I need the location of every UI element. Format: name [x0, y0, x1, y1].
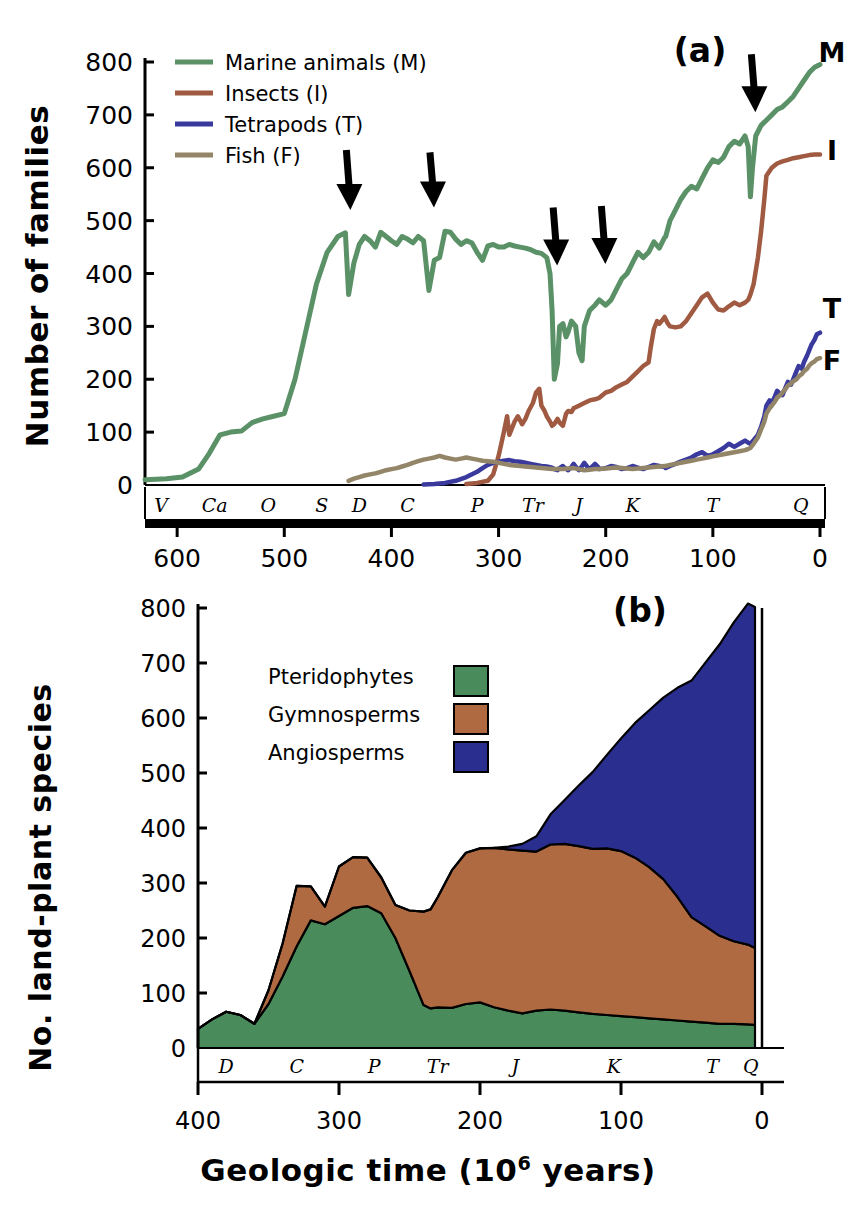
svg-text:800: 800: [85, 48, 133, 77]
figure-xaxis-title: Geologic time (106 years): [0, 1152, 856, 1188]
panel-b-chart: 0100200300400500600700800DCPTrJKTQ400300…: [0, 570, 856, 1150]
panel-b-ytick-100: 100: [140, 980, 186, 1008]
panel-b-period-P: P: [367, 1055, 382, 1077]
extinction-arrow-0: [336, 150, 362, 210]
panel-b-ytick-700: 700: [140, 650, 186, 678]
panel-b-legend-label-0: Pteridophytes: [268, 665, 414, 689]
panel-b-ytick-400: 400: [140, 815, 186, 843]
series-line-1: [466, 155, 820, 484]
panel-b-ytick-0: 0: [171, 1035, 186, 1063]
panel-a-end-label-T: T: [823, 293, 842, 324]
panel-b-legend-swatch-1: [454, 704, 488, 734]
panel-a-xtick-100: 100: [689, 544, 737, 570]
svg-text:100: 100: [85, 418, 133, 447]
svg-text:200: 200: [85, 365, 133, 394]
panel-b-ytick-200: 200: [140, 925, 186, 953]
xaxis-title-tail: years): [531, 1152, 655, 1188]
panel-a-period-S: S: [315, 494, 328, 516]
panel-b-legend-swatch-2: [454, 742, 488, 772]
panel-a-xtick-0: 0: [812, 544, 828, 570]
panel-b-xtick-100: 100: [598, 1107, 644, 1135]
panel-a-period-P: P: [470, 494, 485, 516]
panel-a-chart: 0100200300400500600700800VCaOSDCPTrJKTQ6…: [0, 0, 856, 570]
panel-a: Number of families 010020030040050060070…: [0, 0, 856, 570]
extinction-arrow-1: [420, 152, 446, 207]
panel-a-tag: (a): [674, 31, 726, 70]
panel-b-ylabel: No. land-plant species: [23, 648, 58, 1108]
panel-b-legend-label-1: Gymnosperms: [268, 703, 420, 727]
figure-root: Number of families 010020030040050060070…: [0, 0, 856, 1229]
panel-b-xtick-300: 300: [316, 1107, 362, 1135]
panel-b-period-D: D: [218, 1055, 234, 1077]
panel-a-xtick-500: 500: [260, 544, 308, 570]
panel-a-xtick-600: 600: [153, 544, 201, 570]
panel-a-xtick-200: 200: [582, 544, 630, 570]
panel-a-ylabel: Number of families: [19, 61, 55, 491]
panel-b-xtick-200: 200: [457, 1107, 503, 1135]
legend-label-1: Insects (I): [225, 82, 328, 106]
panel-a-xtick-400: 400: [368, 544, 416, 570]
panel-b-legend-swatch-0: [454, 666, 488, 696]
panel-a-end-label-M: M: [819, 37, 846, 68]
legend-label-3: Fish (F): [225, 144, 301, 168]
legend-label-0: Marine animals (M): [225, 51, 427, 75]
panel-a-period-D: D: [351, 494, 367, 516]
extinction-arrow-3: [591, 206, 617, 264]
panel-a-end-label-I: I: [827, 135, 837, 166]
panel-b-period-T: T: [706, 1055, 720, 1077]
svg-text:400: 400: [85, 260, 133, 289]
panel-b: 0100200300400500600700800DCPTrJKTQ400300…: [0, 570, 856, 1150]
panel-a-period-C: C: [400, 494, 415, 516]
panel-b-period-C: C: [289, 1055, 304, 1077]
extinction-arrow-4: [741, 54, 767, 112]
panel-b-ytick-300: 300: [140, 870, 186, 898]
panel-a-period-Ca: Ca: [202, 494, 228, 516]
panel-a-period-Tr: Tr: [522, 494, 546, 516]
panel-b-ytick-600: 600: [140, 705, 186, 733]
panel-a-period-T: T: [707, 494, 721, 516]
svg-text:600: 600: [85, 154, 133, 183]
panel-b-xtick-0: 0: [754, 1107, 769, 1135]
panel-a-end-label-F: F: [823, 345, 841, 376]
xaxis-title-main: Geologic time (10: [200, 1152, 517, 1188]
xaxis-title-exponent: 6: [517, 1152, 531, 1175]
panel-a-period-V: V: [154, 494, 170, 516]
svg-text:700: 700: [85, 101, 133, 130]
legend-label-2: Tetrapods (T): [224, 113, 363, 137]
panel-a-period-O: O: [260, 494, 276, 516]
panel-a-period-Q: Q: [793, 494, 809, 516]
panel-b-period-Q: Q: [743, 1055, 759, 1077]
panel-a-xtick-300: 300: [475, 544, 523, 570]
panel-b-ytick-500: 500: [140, 760, 186, 788]
panel-b-period-K: K: [606, 1055, 623, 1077]
panel-b-period-Tr: Tr: [427, 1055, 451, 1077]
panel-b-legend-label-2: Angiosperms: [268, 741, 405, 765]
svg-text:500: 500: [85, 207, 133, 236]
panel-b-ytick-800: 800: [140, 595, 186, 623]
panel-b-tag: (b): [613, 591, 667, 630]
panel-b-xtick-400: 400: [175, 1107, 221, 1135]
svg-text:300: 300: [85, 312, 133, 341]
svg-text:0: 0: [117, 471, 133, 500]
panel-a-period-K: K: [624, 494, 641, 516]
